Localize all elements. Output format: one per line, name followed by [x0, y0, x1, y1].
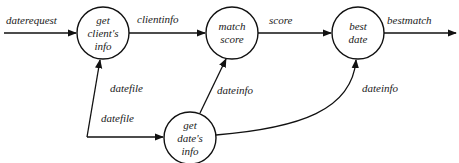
node-line: match [206, 20, 258, 33]
node-line: score [206, 33, 258, 46]
node-line: date's [164, 132, 216, 145]
edge-label-datefile-lower: datefile [101, 113, 134, 124]
node-line: best [332, 20, 384, 33]
edge-label-score: score [269, 15, 292, 26]
edge-label-dateinfo-match: dateinfo [217, 85, 253, 96]
node-line: info [164, 145, 216, 158]
node-line: date [332, 33, 384, 46]
node-label-get-clients-info: get client's info [77, 14, 129, 53]
node-label-get-dates-info: get date's info [164, 119, 216, 158]
node-line: get [164, 119, 216, 132]
node-line: get [77, 14, 129, 27]
edge-label-bestmatch: bestmatch [387, 15, 432, 26]
edge-label-dateinfo-best: dateinfo [362, 83, 398, 94]
edge-datefile-to-client [87, 60, 100, 137]
node-label-match-score: match score [206, 20, 258, 46]
edge-label-datefile-upper: datefile [110, 83, 143, 94]
edge-label-daterequest: daterequest [6, 15, 57, 26]
edge-label-clientinfo: clientinfo [137, 14, 179, 25]
node-line: info [77, 40, 129, 53]
edge-dateinfo-to-best [216, 60, 356, 135]
node-line: client's [77, 27, 129, 40]
node-label-best-date: best date [332, 20, 384, 46]
